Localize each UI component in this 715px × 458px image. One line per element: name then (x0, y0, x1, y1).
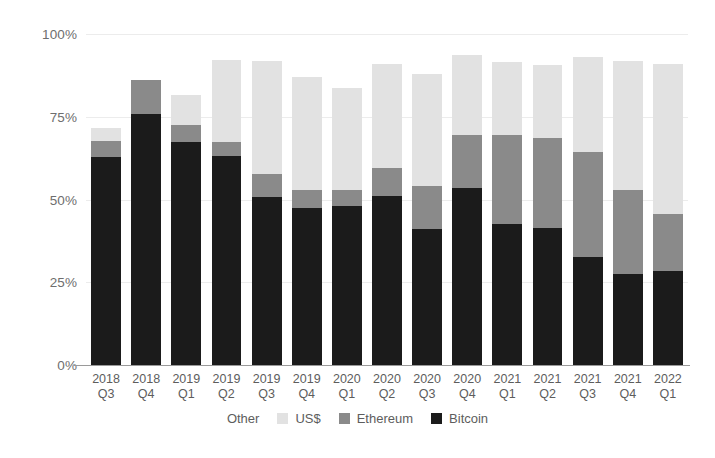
x-tick-quarter: Q1 (327, 387, 367, 402)
bar-segment-bitcoin[interactable] (492, 224, 522, 365)
bar-group[interactable] (332, 34, 362, 365)
x-axis-tick-label: 2021Q4 (608, 372, 648, 402)
bar-group[interactable] (653, 34, 683, 365)
bar-segment-us[interactable] (613, 61, 643, 190)
x-tick-year: 2020 (407, 372, 447, 387)
bar-group[interactable] (171, 34, 201, 365)
bar-segment-ethereum[interactable] (452, 135, 482, 188)
bar-segment-ethereum[interactable] (653, 214, 683, 270)
bar-segment-us[interactable] (292, 77, 322, 190)
bar-segment-us[interactable] (412, 74, 442, 187)
bar-series-layer (86, 34, 688, 365)
bar-segment-bitcoin[interactable] (412, 229, 442, 365)
bar-group[interactable] (91, 34, 121, 365)
bar-segment-us[interactable] (573, 57, 603, 151)
bar-segment-bitcoin[interactable] (91, 157, 121, 365)
x-tick-quarter: Q2 (206, 387, 246, 402)
bar-segment-ethereum[interactable] (212, 142, 242, 157)
bar-segment-us[interactable] (212, 60, 242, 141)
bar-segment-ethereum[interactable] (492, 135, 522, 224)
legend-swatch-uss-icon (277, 413, 288, 424)
bar-segment-ethereum[interactable] (91, 141, 121, 158)
bar-segment-us[interactable] (171, 95, 201, 125)
bar-segment-us[interactable] (533, 65, 563, 138)
x-axis-tick-label: 2021Q2 (527, 372, 567, 402)
x-tick-quarter: Q3 (247, 387, 287, 402)
x-tick-year: 2018 (86, 372, 126, 387)
bar-group[interactable] (412, 34, 442, 365)
bar-segment-bitcoin[interactable] (452, 188, 482, 365)
x-tick-year: 2021 (487, 372, 527, 387)
bar-segment-bitcoin[interactable] (131, 114, 161, 365)
bar-segment-us[interactable] (91, 128, 121, 141)
x-tick-quarter: Q4 (608, 387, 648, 402)
x-tick-quarter: Q2 (527, 387, 567, 402)
legend-label: Other (227, 411, 260, 426)
x-axis-tick-label: 2021Q1 (487, 372, 527, 402)
x-tick-quarter: Q3 (407, 387, 447, 402)
bar-segment-ethereum[interactable] (412, 186, 442, 229)
bar-segment-bitcoin[interactable] (533, 228, 563, 365)
bar-segment-ethereum[interactable] (252, 174, 282, 197)
bar-segment-ethereum[interactable] (171, 125, 201, 142)
bar-segment-ethereum[interactable] (613, 190, 643, 274)
x-tick-year: 2020 (367, 372, 407, 387)
bar-segment-us[interactable] (452, 55, 482, 135)
bar-group[interactable] (452, 34, 482, 365)
bar-segment-bitcoin[interactable] (212, 156, 242, 365)
bar-segment-bitcoin[interactable] (292, 208, 322, 365)
bar-segment-bitcoin[interactable] (613, 274, 643, 365)
legend-item-other[interactable]: Other (227, 411, 260, 426)
x-tick-quarter: Q4 (447, 387, 487, 402)
x-tick-quarter: Q4 (287, 387, 327, 402)
bar-group[interactable] (131, 34, 161, 365)
bar-segment-us[interactable] (372, 64, 402, 168)
bar-group[interactable] (492, 34, 522, 365)
bar-group[interactable] (573, 34, 603, 365)
x-axis-tick-label: 2019Q4 (287, 372, 327, 402)
bar-segment-us[interactable] (252, 61, 282, 174)
bar-segment-bitcoin[interactable] (653, 271, 683, 365)
legend-item-bitcoin[interactable]: Bitcoin (431, 411, 488, 426)
bar-segment-ethereum[interactable] (292, 190, 322, 208)
x-axis-tick-label: 2020Q1 (327, 372, 367, 402)
bar-segment-us[interactable] (653, 64, 683, 215)
x-tick-quarter: Q1 (487, 387, 527, 402)
x-axis-tick-label: 2019Q1 (166, 372, 206, 402)
bar-segment-ethereum[interactable] (372, 168, 402, 196)
x-tick-quarter: Q3 (568, 387, 608, 402)
bar-segment-ethereum[interactable] (131, 80, 161, 114)
x-axis-tick-label: 2018Q3 (86, 372, 126, 402)
bar-segment-bitcoin[interactable] (573, 257, 603, 365)
bar-group[interactable] (372, 34, 402, 365)
bar-segment-bitcoin[interactable] (332, 206, 362, 365)
bar-group[interactable] (292, 34, 322, 365)
legend-label: Ethereum (357, 411, 413, 426)
bar-segment-bitcoin[interactable] (171, 142, 201, 365)
bar-segment-ethereum[interactable] (573, 152, 603, 258)
bar-group[interactable] (212, 34, 242, 365)
bar-segment-us[interactable] (332, 88, 362, 190)
chart-legend: OtherUS$EthereumBitcoin (0, 411, 715, 426)
legend-swatch-ethereum-icon (339, 413, 350, 424)
bar-segment-ethereum[interactable] (332, 190, 362, 207)
legend-item-us[interactable]: US$ (277, 411, 320, 426)
x-axis-tick-label: 2019Q2 (206, 372, 246, 402)
x-tick-quarter: Q2 (367, 387, 407, 402)
legend-label: US$ (295, 411, 320, 426)
x-tick-year: 2022 (648, 372, 688, 387)
x-axis-line (74, 365, 690, 366)
bar-segment-us[interactable] (492, 62, 522, 135)
bar-group[interactable] (613, 34, 643, 365)
x-tick-quarter: Q4 (126, 387, 166, 402)
bar-segment-bitcoin[interactable] (252, 197, 282, 365)
bar-segment-ethereum[interactable] (533, 138, 563, 227)
legend-item-ethereum[interactable]: Ethereum (339, 411, 413, 426)
bar-group[interactable] (533, 34, 563, 365)
bar-segment-bitcoin[interactable] (372, 196, 402, 365)
x-tick-year: 2019 (166, 372, 206, 387)
x-tick-year: 2021 (568, 372, 608, 387)
plot-area: 0%25%50%75%100% 2018Q32018Q42019Q12019Q2… (86, 34, 688, 365)
x-tick-year: 2020 (447, 372, 487, 387)
bar-group[interactable] (252, 34, 282, 365)
